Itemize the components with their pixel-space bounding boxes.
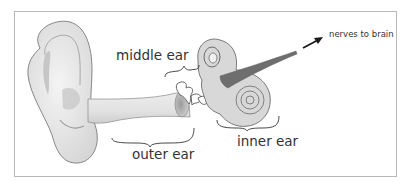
middle-ear-label: middle ear [116, 47, 189, 63]
outer-ear-label: outer ear [132, 146, 194, 162]
ear-canal [88, 91, 190, 123]
outer-ear-brace [112, 128, 194, 147]
nerves-to-brain-label: nerves to brain [329, 29, 394, 39]
arrow-icon [303, 37, 323, 48]
outer-ear-pinna [28, 21, 97, 163]
middle-ear-brace [165, 65, 199, 77]
inner-ear-label: inner ear [237, 133, 298, 149]
